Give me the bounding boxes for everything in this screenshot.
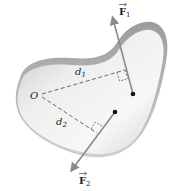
F1-label: F1 (119, 3, 131, 19)
rigid-body (16, 22, 168, 158)
origin-label: O (30, 90, 38, 101)
svg-text:F2: F2 (79, 175, 91, 188)
F2-label: F2 (79, 172, 91, 188)
application-point-1 (131, 92, 136, 97)
application-point-2 (113, 110, 118, 115)
svg-text:F1: F1 (119, 6, 131, 19)
torque-diagram: O d1 d2 F1 F2 (0, 0, 172, 191)
